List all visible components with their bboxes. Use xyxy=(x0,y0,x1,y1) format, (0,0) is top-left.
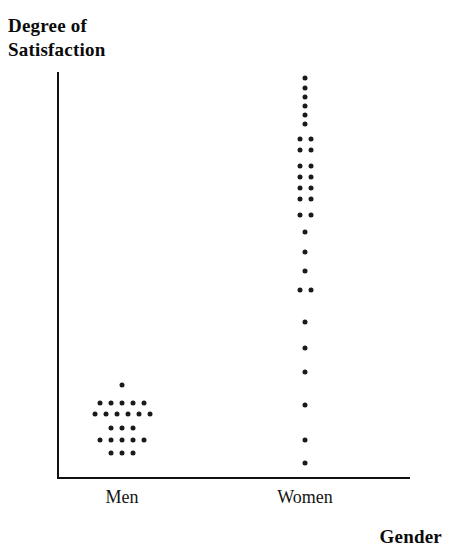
data-point xyxy=(125,412,130,417)
data-point xyxy=(131,451,136,456)
data-point xyxy=(297,288,302,293)
y-axis-label: Degree of Satisfaction xyxy=(8,14,105,63)
data-point xyxy=(120,451,125,456)
data-points-layer xyxy=(0,0,452,556)
data-point xyxy=(297,175,302,180)
data-point xyxy=(308,148,313,153)
dotplot-figure: Degree of Satisfaction Men Women Gender xyxy=(0,0,452,556)
data-point xyxy=(109,451,114,456)
data-point xyxy=(303,104,308,109)
data-point xyxy=(308,175,313,180)
data-point xyxy=(308,164,313,169)
data-point xyxy=(303,320,308,325)
data-point xyxy=(303,461,308,466)
data-point xyxy=(308,137,313,142)
data-point xyxy=(303,438,308,443)
data-point xyxy=(297,148,302,153)
data-point xyxy=(109,401,114,406)
data-point xyxy=(303,269,308,274)
data-point xyxy=(303,403,308,408)
data-point xyxy=(297,197,302,202)
data-point xyxy=(120,426,125,431)
data-point xyxy=(303,370,308,375)
data-point xyxy=(92,412,97,417)
x-axis-line xyxy=(57,477,410,479)
data-point xyxy=(297,137,302,142)
data-point xyxy=(131,438,136,443)
x-tick-label-women: Women xyxy=(277,487,333,508)
data-point xyxy=(147,412,152,417)
data-point xyxy=(114,412,119,417)
data-point xyxy=(136,412,141,417)
data-point xyxy=(98,438,103,443)
data-point xyxy=(120,383,125,388)
data-point xyxy=(303,122,308,127)
data-point xyxy=(303,76,308,81)
x-axis-label: Gender xyxy=(380,526,442,548)
data-point xyxy=(303,230,308,235)
data-point xyxy=(297,186,302,191)
data-point xyxy=(142,438,147,443)
data-point xyxy=(103,412,108,417)
x-tick-label-men: Men xyxy=(106,487,139,508)
data-point xyxy=(303,346,308,351)
data-point xyxy=(109,438,114,443)
data-point xyxy=(142,401,147,406)
data-point xyxy=(308,197,313,202)
data-point xyxy=(297,213,302,218)
data-point xyxy=(303,113,308,118)
data-point xyxy=(303,95,308,100)
data-point xyxy=(297,164,302,169)
data-point xyxy=(131,426,136,431)
data-point xyxy=(120,401,125,406)
data-point xyxy=(308,186,313,191)
data-point xyxy=(98,401,103,406)
data-point xyxy=(303,86,308,91)
y-axis-line xyxy=(57,72,59,479)
data-point xyxy=(120,438,125,443)
data-point xyxy=(109,426,114,431)
data-point xyxy=(131,401,136,406)
data-point xyxy=(308,288,313,293)
data-point xyxy=(303,250,308,255)
data-point xyxy=(308,213,313,218)
